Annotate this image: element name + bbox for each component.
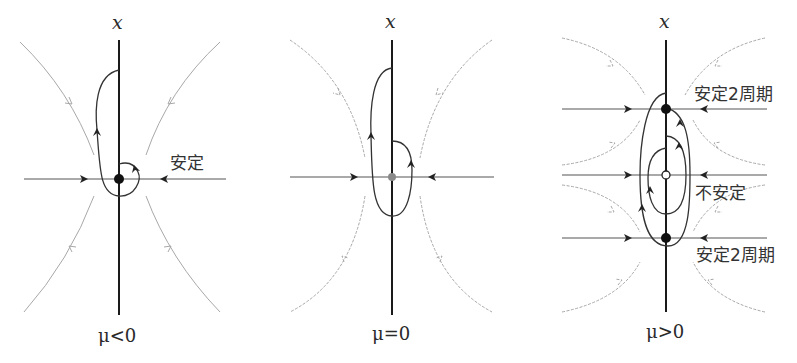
stable-2-cycle-point-top [661, 104, 671, 114]
panel-mu-negative [20, 40, 226, 315]
axis-label-x: x [112, 11, 123, 33]
bifurcation-diagram [0, 0, 797, 363]
arrow-up-icon [407, 160, 415, 168]
panel-mu-zero [290, 40, 494, 315]
annotation-stable: 安定 [170, 149, 204, 174]
axis-label-x: x [385, 10, 396, 32]
condition-label: μ=0 [372, 323, 410, 344]
marginal-fixed-point [388, 173, 396, 181]
unstable-fixed-point [662, 171, 670, 179]
annotation-stable-2-cycle-top: 安定2周期 [694, 80, 773, 105]
axis-label-x: x [659, 10, 670, 32]
arrow-down-icon [646, 186, 654, 194]
stable-2-cycle-point-bottom [661, 233, 671, 243]
condition-label: μ>0 [646, 321, 684, 342]
stable-fixed-point [114, 174, 124, 184]
annotation-stable-2-cycle-bottom: 安定2周期 [696, 241, 775, 266]
annotation-unstable: 不安定 [695, 179, 746, 204]
condition-label: μ<0 [98, 325, 136, 346]
arrow-up-icon [675, 142, 683, 150]
